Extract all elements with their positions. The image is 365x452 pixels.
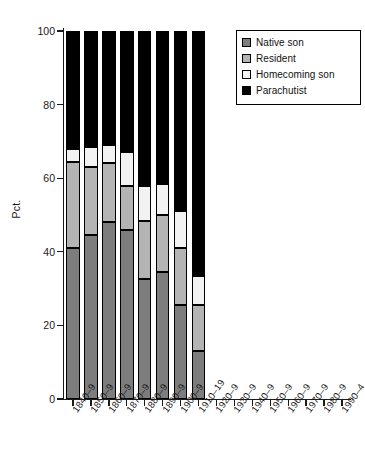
- bar-segment-native-son: [120, 230, 134, 399]
- bar-column: [84, 31, 98, 399]
- swatch-native-son-icon: [242, 38, 251, 47]
- y-axis-title: Pct.: [10, 189, 22, 229]
- legend-item-label: Parachutist: [256, 85, 307, 96]
- swatch-homecoming-son-icon: [242, 70, 251, 79]
- bar-segment-parachutist: [138, 31, 152, 186]
- legend-item-label: Resident: [256, 53, 296, 64]
- bar-segment-parachutist: [84, 31, 98, 147]
- y-tick-label: 100: [0, 25, 55, 37]
- bar-segment-parachutist: [174, 31, 188, 211]
- bar-segment-homecoming-son: [120, 152, 134, 185]
- bar-segment-homecoming-son: [84, 147, 98, 167]
- bar-column: [66, 31, 80, 399]
- chart-legend: Native sonResidentHomecoming sonParachut…: [236, 30, 361, 105]
- legend-item[interactable]: Resident: [242, 51, 355, 66]
- bar-segment-parachutist: [66, 31, 80, 149]
- legend-item[interactable]: Homecoming son: [242, 67, 355, 82]
- bar-column: [156, 31, 170, 399]
- y-tick-label: 0: [0, 393, 55, 405]
- bar-segment-resident: [156, 215, 170, 272]
- legend-item-label: Homecoming son: [256, 69, 335, 80]
- bar-column: [174, 31, 188, 399]
- y-tick-label: 20: [0, 319, 55, 331]
- y-tick-label: 80: [0, 99, 55, 111]
- bar-segment-homecoming-son: [66, 149, 80, 162]
- y-tick-mark: [57, 325, 63, 326]
- bar-segment-native-son: [156, 272, 170, 399]
- bar-segment-resident: [174, 248, 188, 305]
- bar-column: [120, 31, 134, 399]
- y-tick-mark: [57, 104, 63, 105]
- bar-segment-native-son: [138, 279, 152, 399]
- bar-segment-native-son: [84, 235, 98, 399]
- legend-item[interactable]: Parachutist: [242, 83, 355, 98]
- bar-segment-parachutist: [156, 31, 170, 184]
- legend-item[interactable]: Native son: [242, 35, 355, 50]
- y-tick-label: 40: [0, 246, 55, 258]
- swatch-resident-icon: [242, 54, 251, 63]
- bar-segment-resident: [120, 186, 134, 230]
- bar-column: [192, 31, 206, 399]
- bar-segment-resident: [192, 305, 206, 351]
- swatch-parachutist-icon: [242, 86, 251, 95]
- bar-segment-parachutist: [192, 31, 206, 276]
- legend-item-label: Native son: [256, 37, 304, 48]
- bar-segment-homecoming-son: [102, 145, 116, 163]
- bar-segment-resident: [102, 163, 116, 222]
- y-tick-mark: [57, 251, 63, 252]
- bar-segment-resident: [84, 167, 98, 235]
- bar-segment-parachutist: [120, 31, 134, 152]
- bar-segment-homecoming-son: [192, 276, 206, 305]
- bar-segment-parachutist: [102, 31, 116, 145]
- y-tick-mark: [57, 30, 63, 31]
- bar-segment-homecoming-son: [156, 184, 170, 215]
- bar-segment-resident: [66, 162, 80, 248]
- y-tick-label: 60: [0, 172, 55, 184]
- bar-segment-native-son: [66, 248, 80, 399]
- y-tick-mark: [57, 178, 63, 179]
- bar-segment-homecoming-son: [138, 186, 152, 221]
- stacked-bar-chart: Pct. 020406080100 1840–91850–91860–91870…: [0, 0, 365, 452]
- bar-segment-resident: [138, 221, 152, 280]
- bar-segment-native-son: [102, 222, 116, 399]
- bar-column: [138, 31, 152, 399]
- y-tick-mark: [57, 398, 63, 399]
- bar-segment-homecoming-son: [174, 211, 188, 248]
- bar-column: [102, 31, 116, 399]
